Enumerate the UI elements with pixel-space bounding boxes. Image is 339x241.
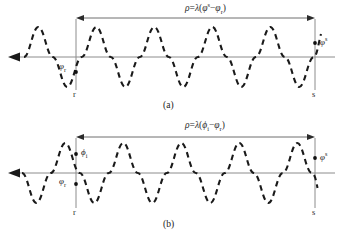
phi-i-sub-b: i xyxy=(86,153,88,159)
phi-satellite-sup-b: s xyxy=(325,151,327,157)
formula-a: ρ=λ(φs−φr) xyxy=(185,2,226,16)
phi-satellite-sup-a: s xyxy=(325,36,327,42)
phi-satellite-dot-b xyxy=(313,156,317,160)
caption-b: (b) xyxy=(163,220,174,230)
phi-satellite-dot-a xyxy=(313,41,317,45)
phi-i-label-b: ϕi xyxy=(81,148,87,159)
phi-receiver-label-a: φr xyxy=(59,62,66,73)
phi-satellite-label-b: φs xyxy=(320,151,327,162)
carrier-phase-figure: ρ=λ(φs−φr) φr φs r s (a) xyxy=(0,0,339,241)
dimension-arrow-b xyxy=(76,134,315,140)
panel-b: ρ=λ(ϕi−φr) ϕi φr φs r s (b) xyxy=(0,118,339,241)
phi-satellite-label-a: φs xyxy=(320,36,327,47)
endpoint-label-r-a: r xyxy=(73,90,76,99)
endpoint-label-s-b: s xyxy=(312,208,315,217)
phi-receiver-label-b: φr xyxy=(59,177,66,188)
phi-i-dot-b xyxy=(74,152,78,156)
caption-a: (a) xyxy=(163,101,174,111)
phi-receiver-dot-a xyxy=(74,70,78,74)
panel-a: ρ=λ(φs−φr) φr φs r s (a) xyxy=(0,0,339,121)
phi-receiver-dot-b xyxy=(74,182,78,186)
formula-b: ρ=λ(ϕi−φr) xyxy=(185,121,225,132)
phi-receiver-sub-b: r xyxy=(64,182,66,188)
dimension-arrow-a xyxy=(76,15,315,21)
horizontal-axis-a xyxy=(8,53,335,62)
formula-a-close-paren: ) xyxy=(223,3,226,13)
phi-receiver-sub-a: r xyxy=(64,67,66,73)
formula-b-close-paren: ) xyxy=(222,120,225,130)
endpoint-label-r-b: r xyxy=(73,208,76,217)
endpoint-label-s-a: s xyxy=(312,90,315,99)
